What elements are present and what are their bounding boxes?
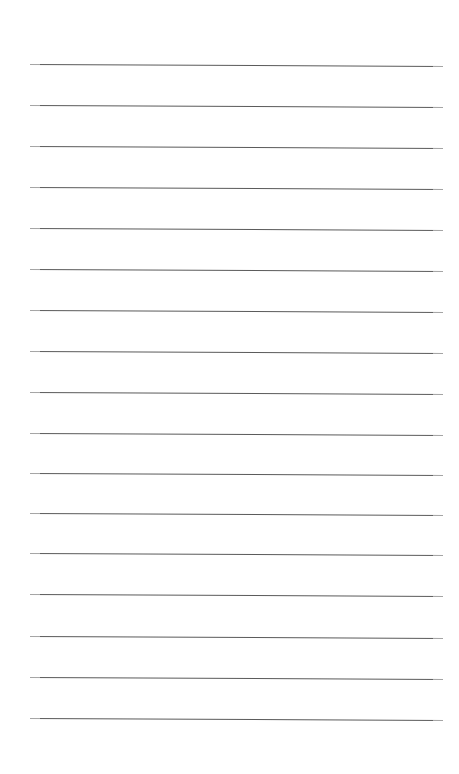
lined-paper-page <box>0 0 459 774</box>
page-background <box>0 0 459 774</box>
